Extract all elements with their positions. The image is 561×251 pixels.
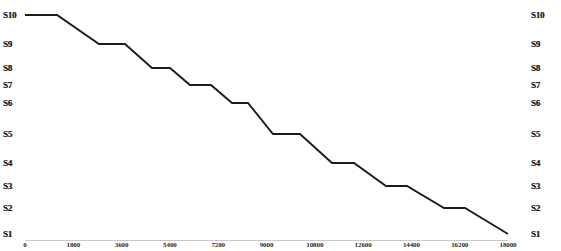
- series-svg: [0, 0, 561, 251]
- x-tick-label-7200: 7200: [211, 241, 225, 250]
- x-tick-label-1800: 1800: [66, 241, 80, 250]
- x-tick-label-3600: 3600: [115, 241, 129, 250]
- x-tick-label-9000: 9000: [260, 241, 274, 250]
- plot-area: [0, 0, 561, 251]
- x-tick-label-10800: 10800: [306, 241, 323, 250]
- signal-level-line: [25, 15, 508, 234]
- x-axis-labels: 0180036005400720090001080012600144001620…: [0, 241, 561, 251]
- x-tick-label-18000: 18000: [499, 241, 516, 250]
- x-tick-label-0: 0: [23, 241, 26, 250]
- x-tick-label-14400: 14400: [403, 241, 420, 250]
- chart-root: S10S9S8S7S6S5S4S3S2S1 S10S9S8S7S6S5S4S3S…: [0, 0, 561, 251]
- x-tick-label-12600: 12600: [355, 241, 372, 250]
- x-tick-label-5400: 5400: [163, 241, 177, 250]
- x-tick-label-16200: 16200: [451, 241, 468, 250]
